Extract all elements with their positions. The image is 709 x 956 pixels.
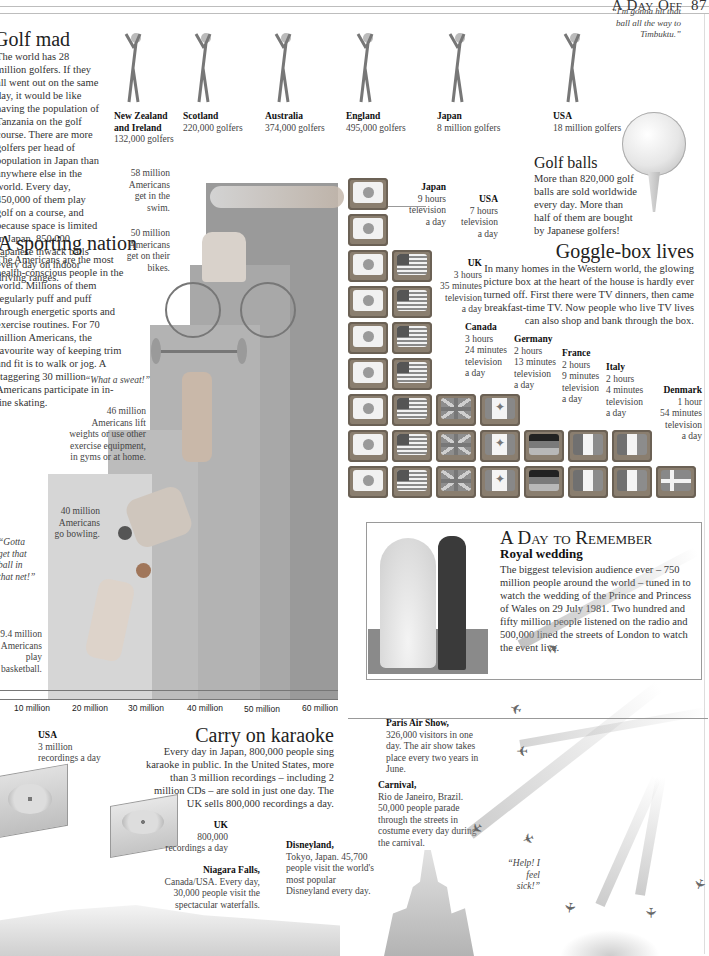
cd-icon (122, 810, 164, 834)
tv-label-uk: UK3 hours35 minutestelevisiona day (436, 258, 482, 316)
bike-wheel-rear (165, 282, 221, 338)
groom-illustration (438, 536, 466, 670)
royal-wedding-subtitle: Royal wedding (500, 546, 583, 562)
golfer-caption-england: England495,000 golfers (346, 111, 406, 134)
quote-basket: “Gotta get that ball in that net!” (0, 537, 38, 583)
tv-label-denmark: Denmark1 hour54 minutestelevisiona day (650, 385, 702, 443)
karaoke-uk-label: UK800,000recordings a day (160, 820, 228, 855)
label-basketball: 29.4 million Americans play basketball. (0, 629, 42, 675)
disneyland-caption: Disneyland,Tokyo, Japan. 45,700 people v… (286, 840, 376, 898)
divider-line (348, 718, 708, 719)
golfer-illustration-scotland (186, 28, 220, 106)
page-number: 87 (691, 0, 707, 13)
cyclist-illustration (202, 232, 246, 282)
golf-balls-title: Golf balls (534, 152, 598, 174)
carnival-caption: Carnival,Rio de Janeiro, Brazil. 50,000 … (378, 780, 478, 849)
tv-usa (392, 394, 432, 426)
golfer-illustration-usa (555, 28, 589, 106)
tv-usa (392, 322, 432, 354)
tv-japan (348, 286, 388, 318)
help-quote: “Help! I feel sick!” (502, 858, 540, 893)
disney-castle-illustration (384, 850, 474, 956)
golfer-caption-japan: Japan8 million golfers (437, 111, 500, 134)
barbell-bar (155, 350, 243, 353)
golfer-quote: “I'm gonna hit that ball all the way to … (597, 6, 681, 41)
airplane-icon: ✈ (516, 742, 528, 759)
niagara-falls-caption: Niagara Falls,Canada/USA. Every day, 30,… (160, 865, 260, 911)
tv-denmark (656, 466, 696, 498)
tv-label-canada: Canada3 hours24 minutestelevisiona day (465, 322, 515, 380)
tv-italy (612, 466, 652, 498)
axis-tick-50m: 50 million (244, 704, 280, 714)
airplane-icon: ✈ (507, 698, 524, 718)
axis-tick-20m: 20 million (72, 703, 108, 713)
label-swim: 58 million Americans get in the swim. (122, 168, 170, 214)
tv-japan (348, 178, 388, 210)
tv-japan (348, 214, 388, 246)
tv-germany (524, 430, 564, 462)
tv-usa (392, 286, 432, 318)
tv-usa (392, 250, 432, 282)
cd-icon (8, 784, 52, 814)
axis-tick-30m: 30 million (128, 703, 164, 713)
tv-japan (348, 250, 388, 282)
tv-uk (436, 430, 476, 462)
tv-canada (480, 430, 520, 462)
niagara-falls-illustration (0, 905, 340, 956)
golf-mad-title: Golf mad (0, 28, 70, 50)
bride-illustration (380, 538, 436, 668)
tv-usa (392, 466, 432, 498)
tv-japan (348, 466, 388, 498)
tv-label-italy: Italy2 hours4 minutestelevisiona day (606, 362, 656, 420)
axis-tick-40m: 40 million (187, 703, 223, 713)
karaoke-usa-label: USA3 millionrecordings a day (38, 730, 101, 765)
leader-line (388, 206, 426, 207)
golfer-illustration-japan (440, 28, 474, 106)
tv-japan (348, 430, 388, 462)
tv-label-france: France2 hours9 minutestelevisiona day (562, 348, 612, 406)
tv-canada (480, 466, 520, 498)
label-bike: 50 million Americans get on their bikes. (122, 228, 170, 274)
airplane-icon: ✈ (560, 900, 579, 915)
tv-label-usa: USA7 hourstelevisiona day (456, 194, 498, 240)
weightlifter-illustration (182, 372, 212, 462)
basketball-icon (136, 563, 151, 578)
label-bowling: 40 million Americans go bowling. (50, 506, 100, 541)
barbell-plate-right (237, 338, 247, 364)
golfer-illustration-nz (116, 28, 150, 106)
golfer-caption-scotland: Scotland220,000 golfers (183, 111, 243, 134)
tv-france (568, 430, 608, 462)
airplane-icon: ✈ (642, 907, 659, 919)
label-weights: 46 million Americans lift weights or use… (64, 406, 146, 464)
golf-ball-icon (622, 112, 686, 176)
karaoke-title: Carry on karaoke (160, 724, 334, 746)
royal-wedding-illustration (368, 524, 488, 674)
paris-air-show-caption: Paris Air Show,326,000 visitors in one d… (386, 718, 482, 776)
quote-sweat: “What a sweat!” (60, 375, 150, 387)
golfer-caption-usa: USA18 million golfers (553, 111, 621, 134)
golfer-caption-nz: New Zealand and Ireland132,000 golfers (114, 111, 178, 146)
chart-axis-line (0, 690, 338, 700)
tv-italy (612, 430, 652, 462)
tv-japan (348, 394, 388, 426)
tv-canada (480, 394, 520, 426)
tv-usa (392, 358, 432, 390)
axis-tick-60m: 60 million (302, 703, 338, 713)
tv-uk (436, 466, 476, 498)
golfer-caption-australia: Australia374,000 golfers (265, 111, 325, 134)
barbell-plate-left (151, 338, 161, 364)
swimmer-illustration (210, 186, 344, 208)
golfer-illustration-australia (266, 28, 300, 106)
tv-japan (348, 358, 388, 390)
airplane-icon: ✈ (519, 828, 536, 848)
tv-japan (348, 322, 388, 354)
tv-uk (436, 394, 476, 426)
tv-label-japan: Japan9 hourstelevisiona day (404, 182, 446, 228)
tv-label-germany: Germany2 hours13 minutestelevisiona day (514, 334, 564, 392)
axis-tick-10m: 10 million (14, 703, 50, 713)
bike-wheel-front (240, 282, 296, 338)
airplane-icon: ✈ (689, 876, 709, 893)
bowling-ball-icon (118, 526, 132, 540)
tv-france (568, 466, 608, 498)
golfer-illustration-england (348, 28, 382, 106)
